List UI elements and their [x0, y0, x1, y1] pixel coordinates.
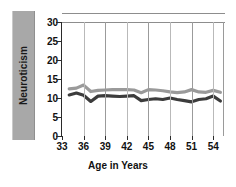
- x-tick-mark: [62, 136, 63, 140]
- x-tick-mark: [213, 136, 214, 140]
- grid-line-vertical: [105, 22, 106, 136]
- y-tick-mark: [56, 98, 62, 99]
- x-tick-mark: [127, 136, 128, 140]
- plot-frame: [62, 22, 224, 136]
- y-tick-mark: [56, 117, 62, 118]
- y-tick-label: 10: [32, 93, 58, 104]
- x-tick-mark: [170, 136, 171, 140]
- x-tick-label: 54: [200, 141, 226, 152]
- y-tick-label: 20: [32, 55, 58, 66]
- y-tick-label: 30: [32, 17, 58, 28]
- plot-outer-top-rule: [62, 13, 225, 14]
- y-tick-label: 0: [32, 131, 58, 142]
- y-tick-mark: [56, 60, 62, 61]
- y-tick-label: 5: [32, 112, 58, 123]
- grid-line-vertical: [170, 22, 171, 136]
- grid-line-vertical: [213, 22, 214, 136]
- grid-line-vertical: [127, 22, 128, 136]
- x-tick-mark: [84, 136, 85, 140]
- y-axis-ticks: 302520151050: [27, 22, 58, 136]
- grid-line-vertical: [148, 22, 149, 136]
- x-tick-mark: [105, 136, 106, 140]
- y-tick-mark: [56, 41, 62, 42]
- y-tick-label: 15: [32, 74, 58, 85]
- grid-line-vertical: [84, 22, 85, 136]
- y-tick-mark: [56, 22, 62, 23]
- y-tick-label: 25: [32, 36, 58, 47]
- grid-line-vertical: [192, 22, 193, 136]
- chart-figure: Neuroticism 302520151050 Age in Years 33…: [0, 0, 236, 187]
- y-tick-mark: [56, 79, 62, 80]
- x-tick-mark: [192, 136, 193, 140]
- x-axis-title: Age in Years: [0, 160, 236, 171]
- x-tick-mark: [148, 136, 149, 140]
- plot-area: [62, 22, 224, 136]
